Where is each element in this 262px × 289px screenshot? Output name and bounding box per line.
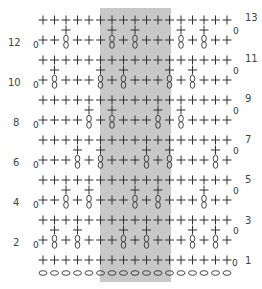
svg-text:0: 0 — [233, 26, 239, 36]
row-label-left: 10 — [8, 78, 21, 88]
svg-text:0: 0 — [33, 200, 39, 210]
svg-text:0: 0 — [233, 226, 239, 236]
svg-text:0: 0 — [233, 146, 239, 156]
stitch-symbols: 0000000000000 — [0, 0, 262, 289]
crochet-chart: 0000000000000 12108642131197531 — [0, 0, 262, 289]
svg-text:0: 0 — [33, 40, 39, 50]
svg-text:0: 0 — [233, 186, 239, 196]
svg-text:0: 0 — [33, 120, 39, 130]
row-label-left: 8 — [13, 118, 19, 128]
row-label-left: 4 — [13, 198, 19, 208]
row-label-left: 12 — [8, 38, 21, 48]
svg-text:0: 0 — [33, 240, 39, 250]
row-label-right: 1 — [245, 256, 251, 266]
row-label-left: 2 — [13, 238, 19, 248]
row-label-right: 9 — [245, 94, 251, 104]
svg-text:0: 0 — [33, 80, 39, 90]
svg-text:0: 0 — [33, 160, 39, 170]
row-label-left: 6 — [13, 158, 19, 168]
svg-text:0: 0 — [233, 106, 239, 116]
svg-text:0: 0 — [232, 258, 238, 268]
row-label-right: 7 — [245, 135, 251, 145]
svg-text:0: 0 — [233, 66, 239, 76]
row-label-right: 13 — [245, 13, 258, 23]
row-label-right: 5 — [245, 175, 251, 185]
row-label-right: 3 — [245, 216, 251, 226]
row-label-right: 11 — [245, 54, 258, 64]
